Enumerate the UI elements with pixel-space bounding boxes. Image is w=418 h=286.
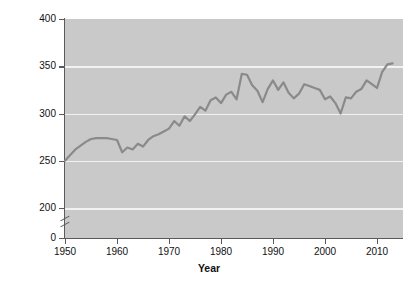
chart-container: Per capita grain production (kg) 4003503…	[0, 0, 418, 286]
data-line-series	[0, 0, 418, 286]
series-line	[65, 63, 393, 160]
x-axis-title: Year	[0, 262, 418, 274]
